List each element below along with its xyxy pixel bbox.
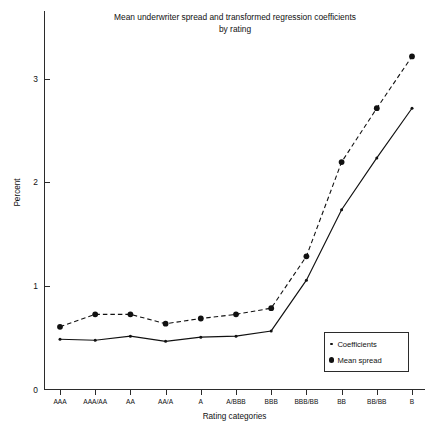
y-axis-tick-mark <box>44 286 50 287</box>
chart-title: Mean underwriter spread and transformed … <box>48 12 422 35</box>
x-axis-tick-mark <box>236 390 237 395</box>
x-axis-tick-mark <box>166 390 167 395</box>
y-axis-tick-mark <box>44 79 50 80</box>
x-axis-tick-label: AAA/AA <box>83 398 107 405</box>
x-axis-tick-mark <box>412 390 413 395</box>
x-axis-tick-mark <box>271 390 272 395</box>
mean-spread-marker-icon <box>329 357 334 362</box>
x-axis-tick-mark <box>306 390 307 395</box>
legend-item-mean-spread: Mean spread <box>329 352 408 368</box>
x-axis-tick-mark <box>201 390 202 395</box>
x-axis-tick-label: AA <box>126 398 135 405</box>
x-axis-tick-label: A <box>199 398 203 405</box>
legend-label-mean-spread: Mean spread <box>337 356 381 365</box>
legend-item-coefficients: Coefficients <box>329 336 408 352</box>
x-axis-tick-label: B <box>410 398 414 405</box>
x-axis-tick-label: BBB <box>265 398 278 405</box>
x-axis-tick-mark <box>342 390 343 395</box>
y-axis-tick-label: 1 <box>16 281 38 291</box>
x-axis-tick-mark <box>377 390 378 395</box>
x-axis-tick-label: BBB/BB <box>294 398 318 405</box>
y-axis-title: Percent <box>13 163 22 223</box>
chart-figure: Mean underwriter spread and transformed … <box>0 0 432 447</box>
chart-title-line-1: Mean underwriter spread and transformed … <box>114 12 356 22</box>
x-axis-tick-label: BB <box>337 398 346 405</box>
legend-label-coefficients: Coefficients <box>337 340 377 349</box>
y-axis-tick-label: 0 <box>16 385 38 395</box>
y-axis-tick-label: 3 <box>16 74 38 84</box>
chart-title-line-2: by rating <box>219 24 251 34</box>
x-axis-tick-label: AA/A <box>158 398 173 405</box>
x-axis-tick-mark <box>130 390 131 395</box>
x-axis-tick-label: A/BBB <box>226 398 245 405</box>
y-axis-tick-mark <box>44 182 50 183</box>
x-axis-tick-mark <box>60 390 61 395</box>
x-axis-tick-mark <box>95 390 96 395</box>
y-axis-tick-label: 2 <box>16 177 38 187</box>
x-axis-tick-label: BB/BB <box>367 398 386 405</box>
x-axis-title: Rating categories <box>44 412 425 421</box>
x-axis-tick-label: AAA <box>53 398 66 405</box>
coefficients-marker-icon <box>330 343 333 346</box>
chart-legend: Coefficients Mean spread <box>324 332 409 372</box>
